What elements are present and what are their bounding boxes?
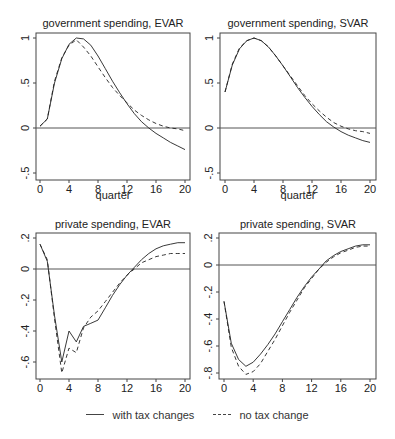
- legend-label: no tax change: [239, 409, 308, 421]
- series-no-tax-change: [40, 40, 185, 131]
- y-tick-label: -.5: [19, 167, 31, 180]
- legend-label: with tax changes: [112, 409, 194, 421]
- figure: government spending, EVAR quarter 048121…: [0, 0, 395, 439]
- plot-frame: [36, 33, 190, 180]
- y-tick-label: -.4: [202, 313, 214, 326]
- panel-government-evar: government spending, EVAR quarter 048121…: [19, 17, 191, 201]
- legend-item-with-tax: with tax changes: [86, 409, 194, 421]
- x-tick-label: 0: [37, 183, 43, 195]
- y-tick-label: .5: [19, 78, 31, 87]
- x-tick-label: 8: [95, 382, 101, 394]
- y-tick-label: 0: [19, 125, 31, 131]
- panel-title: government spending, EVAR: [42, 17, 183, 29]
- x-tick-label: 8: [280, 183, 286, 195]
- panel-government-svar: government spending, SVAR quarter 048121…: [203, 17, 376, 201]
- panel-title: private spending, EVAR: [55, 218, 171, 230]
- x-tick-label: 20: [364, 382, 376, 394]
- y-tick-label: 0: [203, 125, 215, 131]
- plot-frame: [36, 233, 190, 379]
- x-tick-label: 4: [66, 183, 72, 195]
- x-tick-label: 16: [150, 382, 162, 394]
- panel-title: private spending, SVAR: [240, 218, 356, 230]
- y-tick-label: 0: [202, 262, 214, 268]
- y-tick-label: .2: [19, 233, 31, 242]
- x-tick-label: 0: [221, 382, 227, 394]
- y-tick-label: 1: [19, 35, 31, 41]
- x-tick-label: 0: [37, 382, 43, 394]
- x-tick-label: 20: [179, 183, 191, 195]
- x-tick-label: 12: [306, 183, 318, 195]
- series-with-tax-changes: [40, 243, 185, 362]
- dashed-line-icon: [213, 414, 231, 415]
- x-tick-label: 4: [251, 183, 257, 195]
- plot-frame: [220, 33, 376, 180]
- x-tick-label: 20: [364, 183, 376, 195]
- legend: with tax changes no tax change: [0, 405, 395, 421]
- series-no-tax-change: [225, 38, 370, 133]
- y-tick-label: -.6: [202, 340, 214, 353]
- x-tick-label: 16: [335, 382, 347, 394]
- x-tick-label: 20: [179, 382, 191, 394]
- y-tick-label: -.5: [203, 167, 215, 180]
- y-tick-label: -.2: [19, 294, 31, 307]
- legend-item-no-tax: no tax change: [213, 409, 308, 421]
- series-with-tax-changes: [225, 38, 370, 142]
- panel-private-evar: private spending, EVAR 048121620-.6-.4-.…: [19, 218, 191, 394]
- y-tick-label: .2: [202, 233, 214, 242]
- x-tick-label: 8: [279, 382, 285, 394]
- y-tick-label: .5: [203, 78, 215, 87]
- x-tick-label: 4: [250, 382, 256, 394]
- series-with-tax-changes: [224, 245, 370, 366]
- x-tick-label: 0: [222, 183, 228, 195]
- y-tick-label: -.2: [202, 286, 214, 299]
- x-tick-label: 12: [121, 183, 133, 195]
- x-tick-label: 4: [66, 382, 72, 394]
- y-tick-label: 0: [19, 266, 31, 272]
- series-no-tax-change: [40, 244, 185, 373]
- panel-title: government spending, SVAR: [227, 17, 368, 29]
- y-tick-label: -.4: [19, 325, 31, 338]
- x-tick-label: 16: [335, 183, 347, 195]
- x-tick-label: 12: [305, 382, 317, 394]
- y-tick-label: -.6: [19, 356, 31, 369]
- solid-line-icon: [86, 414, 104, 415]
- panel-private-svar: private spending, SVAR 048121620-.8-.6-.…: [202, 218, 376, 394]
- y-tick-label: 1: [203, 35, 215, 41]
- x-tick-label: 16: [150, 183, 162, 195]
- x-tick-label: 8: [95, 183, 101, 195]
- series-with-tax-changes: [40, 38, 185, 150]
- plot-frame: [219, 233, 376, 379]
- y-tick-label: -.8: [202, 367, 214, 380]
- x-tick-label: 12: [121, 382, 133, 394]
